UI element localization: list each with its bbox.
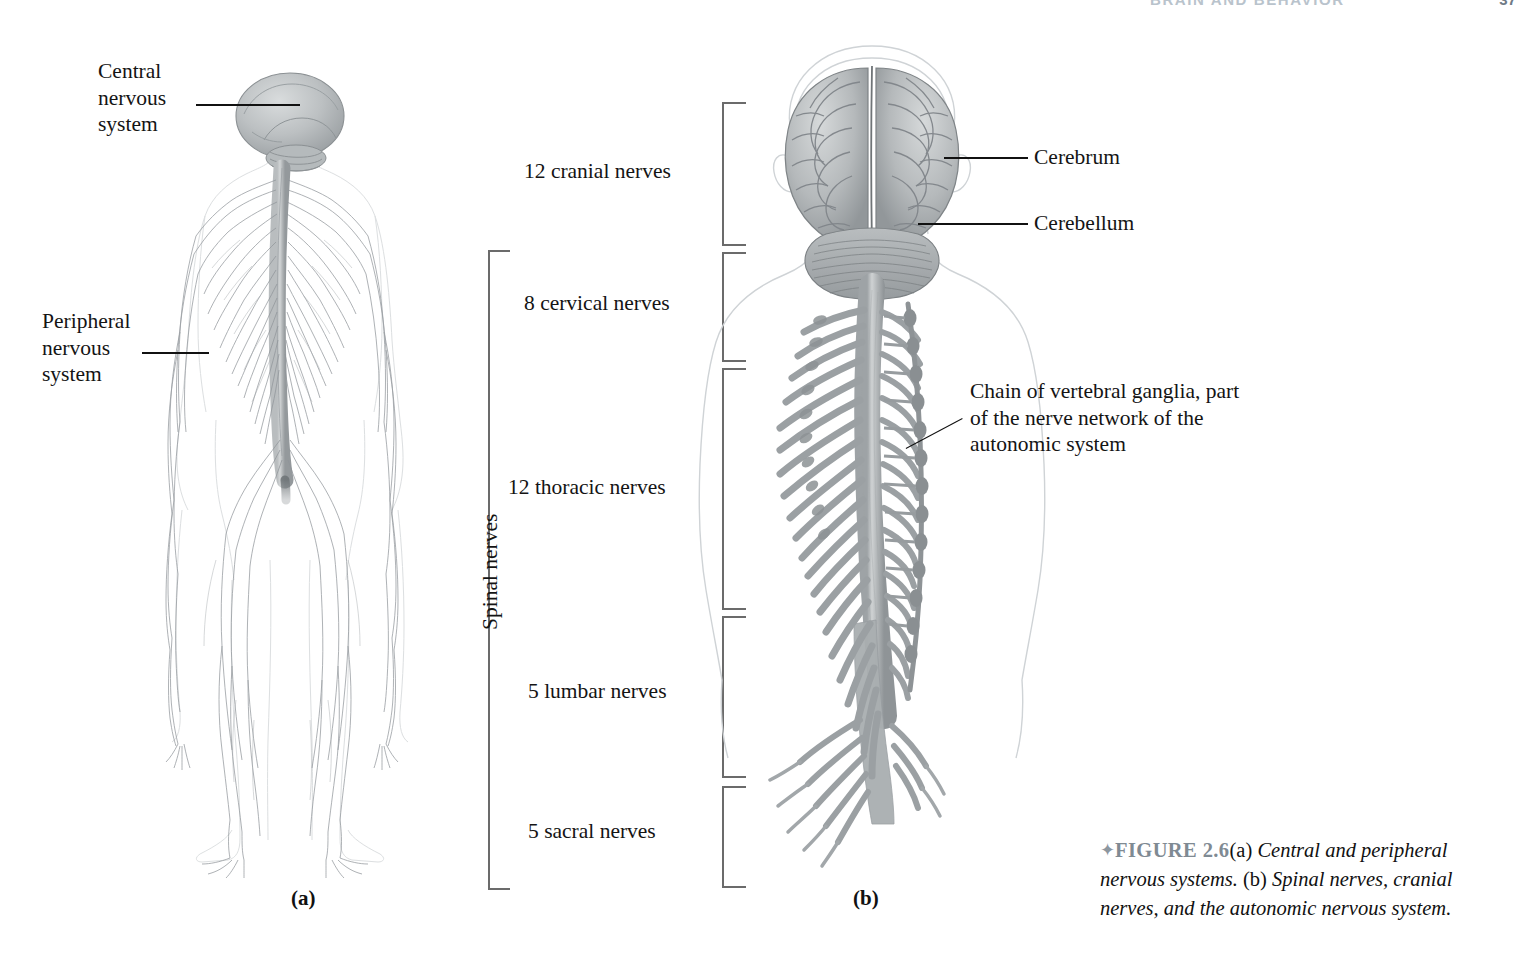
figure-caption: ✦FIGURE 2.6(a) Central and peripheral ne… [1100, 836, 1512, 923]
panel-b-letter: (b) [853, 886, 879, 911]
leader-central-nervous-system [196, 104, 300, 106]
running-head-title: BRAIN AND BEHAVIOR [1150, 0, 1345, 8]
label-vertebral-ganglia: Chain of vertebral ganglia, part of the … [970, 378, 1270, 458]
caption-figure-number: FIGURE 2.6 [1115, 839, 1229, 861]
caption-part-a-prefix: (a) [1229, 839, 1257, 861]
leader-cerebrum [944, 157, 1028, 159]
label-cerebrum: Cerebrum [1034, 144, 1120, 171]
label-spinal-nerves: Spinal nerves [478, 514, 503, 630]
label-cerebellum: Cerebellum [1034, 210, 1134, 237]
panel-a-letter: (a) [291, 886, 316, 911]
caption-bullet-icon: ✦ [1100, 840, 1115, 860]
figure-page: BRAIN AND BEHAVIOR 37 [0, 0, 1516, 975]
label-thoracic-nerves: 12 thoracic nerves [508, 474, 666, 501]
label-sacral-nerves: 5 sacral nerves [528, 818, 656, 845]
caption-part-b-prefix: (b) [1238, 868, 1272, 890]
leader-cerebellum [918, 223, 1028, 225]
leader-peripheral-nervous-system [142, 352, 209, 354]
page-number: 37 [1499, 0, 1516, 8]
label-cranial-nerves: 12 cranial nerves [524, 158, 671, 185]
label-cervical-nerves: 8 cervical nerves [524, 290, 670, 317]
label-peripheral-nervous-system: Peripheral nervous system [42, 308, 182, 388]
label-central-nervous-system: Central nervous system [98, 58, 238, 138]
label-lumbar-nerves: 5 lumbar nerves [528, 678, 667, 705]
running-head: BRAIN AND BEHAVIOR 37 [1150, 0, 1516, 9]
panel-a-illustration [120, 40, 460, 890]
